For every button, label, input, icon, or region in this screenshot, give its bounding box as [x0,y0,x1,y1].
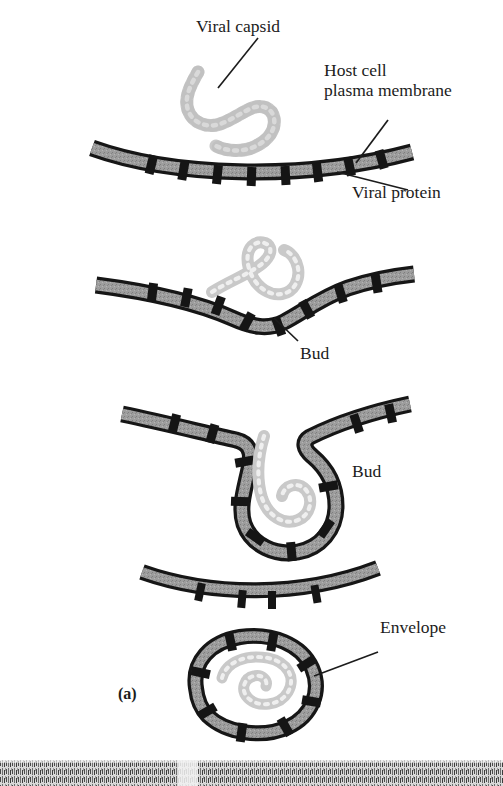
label-host-membrane-line2: plasma membrane [324,80,452,100]
scan-strip-artifact [0,760,503,786]
label-bud-stage3: Bud [352,461,381,481]
label-viral-protein: Viral protein [352,182,441,202]
panel-label: (a) [118,684,137,704]
viral-budding-figure [0,0,503,786]
label-bud-stage2: Bud [300,343,329,363]
label-host-membrane-line1: Host cell [324,60,387,80]
enveloped-virion [190,631,321,742]
label-envelope: Envelope [380,617,446,637]
label-viral-capsid: Viral capsid [196,16,280,36]
